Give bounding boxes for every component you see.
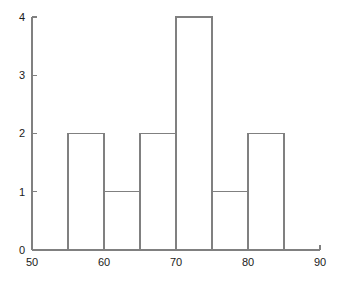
histogram-figure: 01234 5060708090 (0, 0, 342, 283)
bars-group (68, 17, 284, 250)
x-ticks-group (32, 245, 320, 250)
x-tick-label: 70 (170, 256, 182, 268)
histogram-bar (104, 192, 140, 250)
histogram-bar (176, 17, 212, 250)
y-tick-label: 2 (19, 127, 25, 139)
plot-canvas: 01234 5060708090 (0, 0, 342, 283)
y-tick-label: 4 (19, 11, 25, 23)
histogram-bar (140, 134, 176, 251)
y-tick-label: 1 (19, 186, 25, 198)
y-tick-label: 0 (19, 244, 25, 256)
y-tick-labels-group: 01234 (19, 11, 25, 256)
y-ticks-group (32, 17, 37, 250)
x-tick-label: 90 (314, 256, 326, 268)
histogram-bar (212, 192, 248, 250)
histogram-bar (248, 134, 284, 251)
histogram-bar (68, 134, 104, 251)
y-tick-label: 3 (19, 69, 25, 81)
x-tick-label: 60 (98, 256, 110, 268)
x-tick-label: 50 (26, 256, 38, 268)
x-tick-labels-group: 5060708090 (26, 256, 326, 268)
x-tick-label: 80 (242, 256, 254, 268)
